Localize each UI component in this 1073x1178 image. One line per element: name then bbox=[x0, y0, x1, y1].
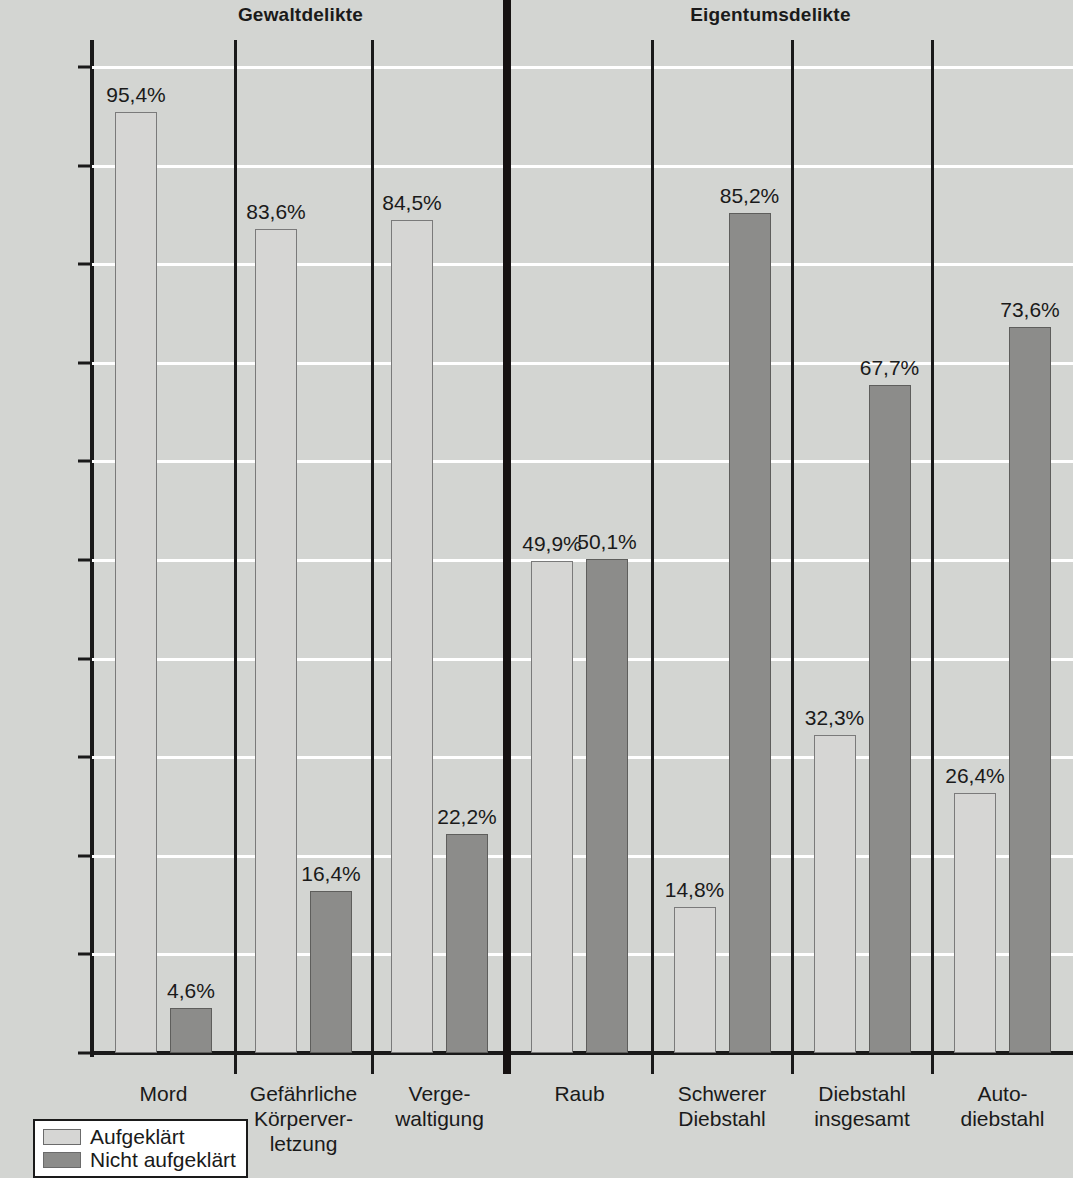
bar-nicht-aufgeklaert-7 bbox=[1009, 327, 1051, 1053]
bar-aufgeklaert-1 bbox=[115, 112, 157, 1053]
legend-swatch-dark bbox=[43, 1152, 81, 1168]
bar-value-label-aufgeklaert-3: 84,5% bbox=[382, 191, 442, 215]
y-tick-mark-60 bbox=[78, 460, 92, 463]
category-label-6: Diebstahl insgesamt bbox=[814, 1081, 910, 1131]
x-axis-baseline bbox=[92, 1051, 1073, 1055]
y-tick-mark-20 bbox=[78, 854, 92, 857]
gridline-90 bbox=[92, 165, 1073, 168]
group-header-2: Eigentumsdelikte bbox=[690, 4, 851, 26]
legend-label-1: Aufgeklärt bbox=[90, 1126, 185, 1147]
category-label-4: Raub bbox=[554, 1081, 604, 1106]
legend-item-2: Nicht aufgeklärt bbox=[43, 1148, 236, 1171]
y-tick-mark-50 bbox=[78, 559, 92, 562]
bar-aufgeklaert-5 bbox=[674, 907, 716, 1053]
bar-aufgeklaert-3 bbox=[391, 220, 433, 1053]
bar-value-label-nicht-aufgeklaert-4: 50,1% bbox=[577, 530, 637, 554]
y-tick-mark-80 bbox=[78, 263, 92, 266]
bar-value-label-nicht-aufgeklaert-3: 22,2% bbox=[437, 805, 497, 829]
bar-nicht-aufgeklaert-2 bbox=[310, 891, 352, 1053]
y-tick-mark-0 bbox=[78, 1052, 92, 1055]
y-tick-mark-40 bbox=[78, 657, 92, 660]
gridline-70 bbox=[92, 362, 1073, 365]
y-tick-mark-30 bbox=[78, 756, 92, 759]
gridline-80 bbox=[92, 263, 1073, 266]
category-label-3: Verge- waltigung bbox=[395, 1081, 484, 1131]
gridline-20 bbox=[92, 855, 1073, 858]
gridline-30 bbox=[92, 756, 1073, 759]
chart-legend: AufgeklärtNicht aufgeklärt bbox=[33, 1119, 248, 1178]
y-tick-mark-90 bbox=[78, 164, 92, 167]
bar-value-label-aufgeklaert-1: 95,4% bbox=[106, 83, 166, 107]
bar-aufgeklaert-2 bbox=[255, 229, 297, 1053]
bar-value-label-aufgeklaert-2: 83,6% bbox=[246, 200, 306, 224]
category-divider-6 bbox=[931, 40, 934, 1074]
legend-label-2: Nicht aufgeklärt bbox=[90, 1149, 236, 1170]
bar-value-label-nicht-aufgeklaert-1: 4,6% bbox=[167, 979, 215, 1003]
group-header-1: Gewaltdelikte bbox=[238, 4, 363, 26]
y-tick-mark-100 bbox=[78, 66, 92, 69]
bar-nicht-aufgeklaert-4 bbox=[586, 559, 628, 1053]
bar-nicht-aufgeklaert-1 bbox=[170, 1008, 212, 1053]
bar-value-label-aufgeklaert-5: 14,8% bbox=[665, 878, 725, 902]
bar-aufgeklaert-4 bbox=[531, 561, 573, 1053]
legend-item-1: Aufgeklärt bbox=[43, 1125, 236, 1148]
category-label-5: Schwerer Diebstahl bbox=[678, 1081, 767, 1131]
y-tick-mark-70 bbox=[78, 361, 92, 364]
plot-area: 95,4%4,6%83,6%16,4%84,5%22,2%49,9%50,1%1… bbox=[92, 67, 1073, 1053]
category-label-1: Mord bbox=[140, 1081, 188, 1106]
category-divider-4 bbox=[651, 40, 654, 1074]
bar-value-label-nicht-aufgeklaert-2: 16,4% bbox=[301, 862, 361, 886]
bar-nicht-aufgeklaert-6 bbox=[869, 385, 911, 1053]
bar-value-label-aufgeklaert-7: 26,4% bbox=[945, 764, 1005, 788]
major-group-divider bbox=[503, 0, 511, 1074]
category-divider-5 bbox=[791, 40, 794, 1074]
category-label-2: Gefährliche Körperver- letzung bbox=[250, 1081, 357, 1156]
bar-nicht-aufgeklaert-3 bbox=[446, 834, 488, 1053]
bar-value-label-aufgeklaert-4: 49,9% bbox=[522, 532, 582, 556]
y-tick-mark-10 bbox=[78, 953, 92, 956]
bar-aufgeklaert-6 bbox=[814, 735, 856, 1053]
gridline-100 bbox=[92, 66, 1073, 69]
category-divider-2 bbox=[371, 40, 374, 1074]
bar-aufgeklaert-7 bbox=[954, 793, 996, 1053]
legend-swatch-light bbox=[43, 1129, 81, 1145]
bar-value-label-nicht-aufgeklaert-6: 67,7% bbox=[860, 356, 920, 380]
gridline-50 bbox=[92, 559, 1073, 562]
gridline-60 bbox=[92, 460, 1073, 463]
gridline-10 bbox=[92, 953, 1073, 956]
bar-value-label-nicht-aufgeklaert-7: 73,6% bbox=[1000, 298, 1060, 322]
category-divider-1 bbox=[234, 40, 237, 1074]
gridline-40 bbox=[92, 658, 1073, 661]
bar-value-label-aufgeklaert-6: 32,3% bbox=[805, 706, 865, 730]
bar-nicht-aufgeklaert-5 bbox=[729, 213, 771, 1053]
category-label-7: Auto- diebstahl bbox=[960, 1081, 1044, 1131]
bar-value-label-nicht-aufgeklaert-5: 85,2% bbox=[720, 184, 780, 208]
